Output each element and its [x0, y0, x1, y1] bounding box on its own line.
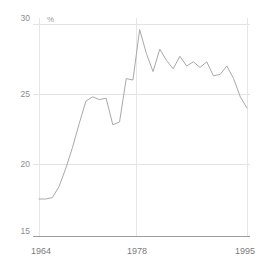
- y-tick-30: 30: [21, 13, 31, 23]
- y-tick-20: 20: [21, 159, 31, 169]
- horizontal-gridlines: [33, 25, 250, 165]
- vertical-gridlines: [40, 18, 248, 236]
- x-axis-labels: 1964 1978 1995: [31, 246, 255, 256]
- y-tick-25: 25: [21, 89, 31, 99]
- y-axis-unit-label: %: [47, 15, 54, 24]
- y-tick-15: 15: [21, 226, 31, 236]
- x-tick-1978: 1978: [127, 246, 147, 256]
- y-axis-labels: 30 25 20 15: [21, 13, 31, 236]
- chart-container: 30 25 20 15 % 1964 1978 1995: [0, 0, 264, 272]
- x-tick-1995: 1995: [235, 246, 255, 256]
- data-series-line-main: [39, 30, 247, 199]
- x-tick-1964: 1964: [31, 246, 51, 256]
- line-chart-svg: 30 25 20 15 % 1964 1978 1995: [0, 0, 264, 272]
